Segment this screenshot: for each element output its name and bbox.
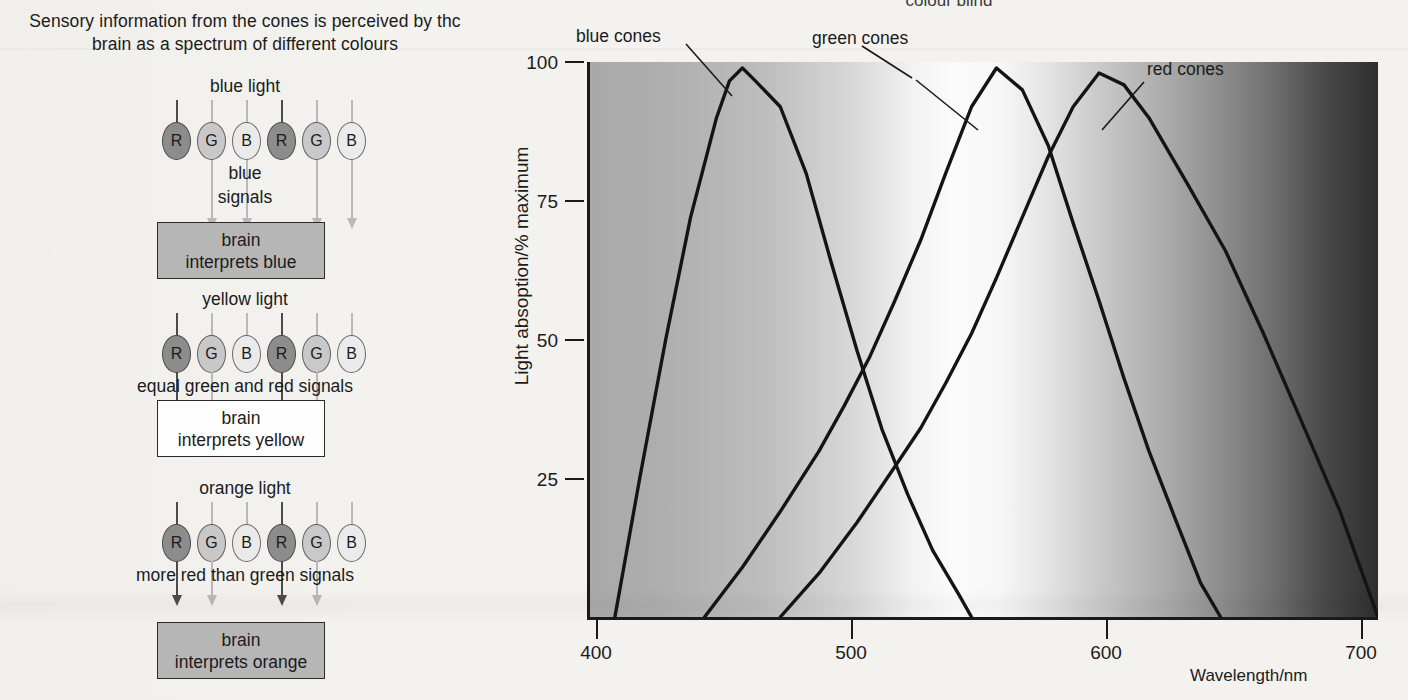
brain-box-line2: interprets yellow [178, 429, 304, 451]
x-tick-label-400: 400 [561, 642, 631, 664]
light-label-orange: orange light [0, 478, 490, 499]
signal-label-blue-line1: blue [0, 163, 490, 184]
brain-box-line2: interprets orange [175, 651, 307, 673]
y-tick-mark [565, 339, 584, 341]
signal-label-blue-line2: signals [0, 187, 490, 208]
curve-blue-cones [615, 68, 972, 617]
absorption-curves [590, 62, 1378, 617]
cone-cell-b: B [337, 122, 366, 160]
cone-cell-b: B [232, 524, 261, 562]
cone-cell-r: R [267, 335, 296, 373]
x-tick-label-700: 700 [1326, 642, 1396, 664]
cone-cell-r: R [162, 122, 191, 160]
cone-cell-g: G [302, 524, 331, 562]
brain-box-line1: brain [222, 229, 261, 251]
y-tick-mark [565, 200, 584, 202]
y-tick-mark [565, 478, 584, 480]
y-tick-label-100: 100 [512, 52, 558, 74]
cone-absorption-chart: colour blind Light absoption/% maximum 1… [490, 0, 1408, 700]
series-label-red-cones: red cones [1147, 59, 1224, 80]
cone-signal-diagram: Sensory information from the cones is pe… [0, 0, 490, 700]
x-tick-mark [851, 620, 853, 639]
y-tick-label-25: 25 [512, 469, 558, 491]
y-tick-label-50: 50 [512, 330, 558, 352]
signal-label-orange: more red than green signals [0, 565, 490, 586]
cone-cell-g: G [197, 524, 226, 562]
y-tick-mark [565, 61, 584, 63]
cone-cell-g: G [302, 335, 331, 373]
cone-cell-g: G [197, 122, 226, 160]
cone-cell-r: R [162, 335, 191, 373]
x-tick-label-500: 500 [816, 642, 886, 664]
x-tick-mark [1106, 620, 1108, 639]
brain-box-yellow: brain interprets yellow [157, 400, 325, 457]
y-axis-label: Light absoption/% maximum [511, 0, 533, 546]
cone-row-orange: R G B R G B [0, 524, 490, 564]
signal-label-yellow: equal green and red signals [0, 376, 490, 397]
y-tick-label-75: 75 [512, 191, 558, 213]
x-tick-mark [596, 620, 598, 639]
brain-box-line1: brain [222, 629, 261, 651]
cone-cell-b: B [337, 335, 366, 373]
light-label-yellow: yellow light [0, 289, 490, 310]
x-tick-mark [1361, 620, 1363, 639]
cone-cell-b: B [337, 524, 366, 562]
cone-cell-b: B [232, 122, 261, 160]
brain-box-blue: brain interprets blue [157, 222, 325, 279]
cone-cell-b: B [232, 335, 261, 373]
cut-off-heading: colour blind [490, 0, 1408, 11]
x-axis-label: Wavelength/nm [1190, 666, 1307, 686]
cone-cell-g: G [197, 335, 226, 373]
cone-cell-r: R [267, 524, 296, 562]
series-label-green-cones: green cones [812, 28, 908, 49]
light-label-blue: blue light [0, 76, 490, 97]
plot-area [587, 62, 1378, 620]
series-label-blue-cones: blue cones [576, 26, 661, 47]
brain-box-line1: brain [222, 407, 261, 429]
diagram-caption: Sensory information from the cones is pe… [8, 10, 482, 56]
cone-cell-g: G [302, 122, 331, 160]
cone-row-blue: R G B R G B [0, 122, 490, 162]
cone-cell-r: R [162, 524, 191, 562]
x-tick-label-600: 600 [1071, 642, 1141, 664]
cone-cell-r: R [267, 122, 296, 160]
cone-row-yellow: R G B R G B [0, 335, 490, 375]
curve-red-cones [780, 73, 1378, 617]
curve-green-cones [705, 68, 1221, 617]
brain-box-orange: brain interprets orange [157, 622, 325, 679]
brain-box-line2: interprets blue [186, 251, 297, 273]
